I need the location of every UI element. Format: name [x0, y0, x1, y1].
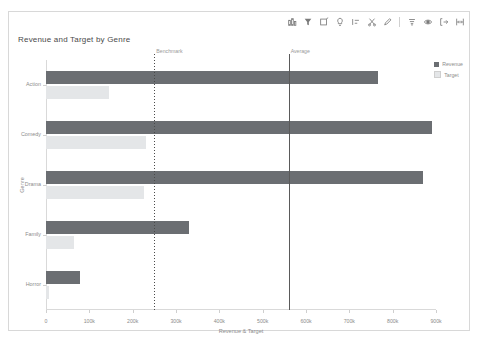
- bar-revenue[interactable]: [46, 271, 80, 284]
- export-arrow-icon[interactable]: [438, 16, 449, 28]
- legend-label: Revenue: [442, 61, 463, 67]
- bar-revenue[interactable]: [46, 71, 378, 84]
- lightbulb-icon[interactable]: [334, 16, 345, 28]
- reference-line-label-average: Average: [291, 48, 310, 54]
- y-axis-category-label: Comedy: [21, 131, 41, 137]
- x-axis-tick-label: 600k: [300, 318, 311, 324]
- bar-target[interactable]: [46, 236, 74, 249]
- legend-label: Target: [444, 72, 458, 78]
- pencil-edit-icon[interactable]: [382, 16, 393, 28]
- x-axis-tick-label: 800k: [387, 318, 398, 324]
- bar-revenue[interactable]: [46, 221, 189, 234]
- chart-category-row: Comedy: [46, 110, 436, 160]
- bar-target[interactable]: [46, 136, 146, 149]
- x-axis-tick-label: 100k: [84, 318, 95, 324]
- x-axis-tick-label: 300k: [170, 318, 181, 324]
- bar-target[interactable]: [46, 186, 144, 199]
- visualization-frame: Revenue and Target by Genre Genre 0100k2…: [8, 11, 470, 331]
- bar-revenue[interactable]: [46, 121, 432, 134]
- chart-legend: RevenueTarget: [434, 61, 463, 78]
- bar-target[interactable]: [46, 286, 49, 299]
- bar-target[interactable]: [46, 86, 109, 99]
- data-source-icon[interactable]: [286, 16, 297, 28]
- plot-inner: 0100k200k300k400k500k600k700k800k900kAct…: [46, 60, 436, 310]
- plot-area: 0100k200k300k400k500k600k700k800k900kAct…: [46, 60, 436, 310]
- x-axis-tick: [176, 310, 177, 313]
- reference-line-benchmark[interactable]: [154, 54, 155, 310]
- x-axis-tick: [436, 310, 437, 313]
- chart-category-row: Family: [46, 210, 436, 260]
- x-axis-tick-label: 400k: [214, 318, 225, 324]
- x-axis-tick: [349, 310, 350, 313]
- x-axis-tick: [46, 310, 47, 313]
- y-axis-category-label: Family: [25, 231, 41, 237]
- filter-funnel-icon[interactable]: [302, 16, 313, 28]
- align-left-icon[interactable]: [350, 16, 361, 28]
- legend-item[interactable]: Revenue: [434, 61, 463, 67]
- eye-icon[interactable]: [422, 16, 433, 28]
- reference-line-label-benchmark: Benchmark: [156, 48, 182, 54]
- chart-title: Revenue and Target by Genre: [18, 35, 130, 44]
- y-axis-category-label: Action: [26, 81, 41, 87]
- bar-revenue[interactable]: [46, 171, 423, 184]
- x-axis-tick: [393, 310, 394, 313]
- chart-category-row: Horror: [46, 260, 436, 310]
- edit-square-icon[interactable]: [318, 16, 329, 28]
- x-axis-tick: [306, 310, 307, 313]
- legend-swatch-icon: [434, 71, 441, 78]
- y-axis-category-label: Drama: [25, 181, 41, 187]
- x-axis-tick: [133, 310, 134, 313]
- x-axis-tick-label: 700k: [344, 318, 355, 324]
- chart-category-row: Drama: [46, 160, 436, 210]
- chart-toolbar[interactable]: [286, 14, 465, 30]
- reference-line-average[interactable]: [289, 54, 290, 310]
- scissors-icon[interactable]: [366, 16, 377, 28]
- legend-item[interactable]: Target: [434, 71, 463, 78]
- chart-category-row: Action: [46, 60, 436, 110]
- x-axis-tick: [89, 310, 90, 313]
- x-axis-tick-label: 900k: [430, 318, 441, 324]
- x-axis-tick-label: 200k: [127, 318, 138, 324]
- x-axis-tick: [219, 310, 220, 313]
- x-axis-tick: [263, 310, 264, 313]
- legend-swatch-icon: [434, 62, 439, 67]
- sort-icon[interactable]: [406, 16, 417, 28]
- toolbar-divider: [399, 17, 400, 27]
- fullscreen-icon[interactable]: [454, 16, 465, 28]
- x-axis-title: Revenue & Target: [46, 328, 436, 334]
- x-axis-tick-label: 0: [45, 318, 48, 324]
- y-axis-category-label: Horror: [26, 281, 41, 287]
- x-axis-tick-label: 500k: [257, 318, 268, 324]
